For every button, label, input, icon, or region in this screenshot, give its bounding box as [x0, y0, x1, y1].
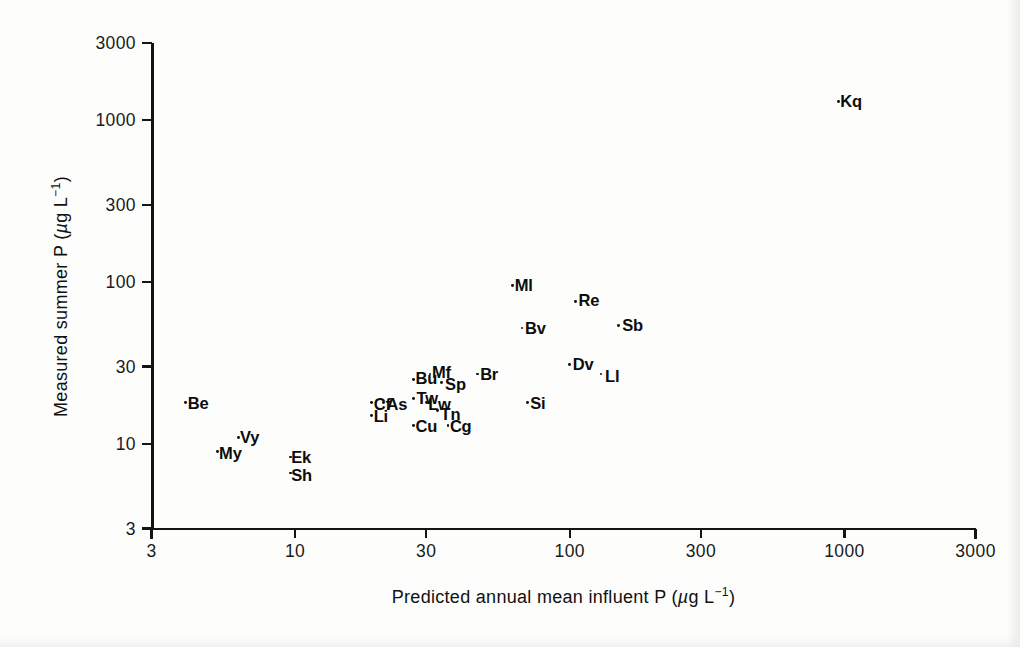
x-axis-title: Predicted annual mean influent P (µg L−1…: [151, 585, 976, 608]
x-axis-tick-label-10: 10: [285, 541, 305, 562]
x-axis-tick-3: [150, 529, 152, 539]
data-point-label-Br: Br: [480, 365, 498, 384]
data-point-marker-Cg: [447, 424, 450, 427]
data-point-label-Vy: Vy: [240, 428, 259, 447]
x-axis-tick-100: [569, 529, 571, 538]
x-axis-tick-30: [425, 529, 427, 538]
x-axis-tick-3000: [974, 529, 976, 539]
data-point-marker-Be: [184, 401, 187, 404]
data-point-label-Bv: Bv: [525, 319, 546, 338]
paper-edge-shading-right: [1006, 0, 1020, 647]
data-point-label-Ek: Ek: [291, 448, 311, 467]
data-point-label-Si: Si: [530, 394, 545, 413]
data-point-label-Ll: Ll: [605, 367, 619, 386]
data-point-marker-Sp: [440, 381, 443, 384]
data-point-marker-Ml: [511, 284, 514, 287]
y-axis-line: [151, 43, 154, 530]
data-point-marker-Cf: [370, 401, 373, 404]
data-point-marker-Ll: [600, 373, 603, 376]
scatter-plot-figure: 3103010030010003000 3103010030010003000 …: [0, 0, 1020, 647]
data-point-label-Be: Be: [188, 394, 209, 413]
x-axis-tick-label-3: 3: [146, 541, 156, 562]
x-axis-line: [151, 528, 976, 531]
data-point-marker-Sb: [617, 324, 620, 327]
data-point-marker-My: [216, 450, 219, 453]
x-axis-tick-10: [294, 529, 296, 538]
y-axis-tick-100: [142, 281, 151, 283]
data-point-marker-Kq: [837, 100, 840, 103]
data-point-label-Re: Re: [579, 291, 600, 310]
data-point-marker-Li: [370, 414, 373, 417]
x-axis-tick-1000: [843, 529, 845, 538]
x-axis-tick-label-30: 30: [416, 541, 436, 562]
y-axis-tick-300: [142, 204, 151, 206]
x-axis-tick-label-300: 300: [686, 541, 716, 562]
x-axis-tick-label-1000: 1000: [824, 541, 865, 562]
data-point-label-My: My: [219, 444, 242, 463]
y-axis-tick-1000: [142, 119, 151, 121]
y-axis-tick-10: [142, 443, 151, 445]
y-axis-title: Measured summer P (µg L−1): [49, 67, 72, 527]
x-axis-tick-label-100: 100: [555, 541, 585, 562]
data-point-label-Kq: Kq: [840, 92, 862, 111]
data-point-marker-Bv: [521, 327, 524, 330]
y-axis-tick-label-3000: 3000: [0, 33, 136, 54]
paper-edge-shading-bottom: [0, 637, 1020, 647]
data-point-label-Li: Li: [374, 407, 388, 426]
y-axis-tick-30: [142, 365, 151, 367]
data-point-marker-Tw: [412, 397, 415, 400]
data-point-label-As: As: [387, 395, 408, 414]
data-point-label-Sh: Sh: [291, 466, 312, 485]
x-axis-tick-label-3000: 3000: [955, 541, 996, 562]
y-axis-tick-3000: [142, 42, 152, 44]
data-point-marker-Si: [526, 401, 529, 404]
data-point-marker-Br: [476, 373, 479, 376]
data-point-label-Cg: Cg: [450, 417, 472, 436]
data-point-marker-Dv: [568, 363, 571, 366]
data-point-marker-Cu: [412, 424, 415, 427]
data-point-label-Sb: Sb: [622, 316, 643, 335]
data-point-label-Ml: Ml: [515, 276, 533, 295]
data-point-label-Sp: Sp: [445, 375, 466, 394]
data-point-label-Dv: Dv: [573, 355, 594, 374]
x-axis-tick-300: [700, 529, 702, 538]
data-point-label-Cu: Cu: [416, 417, 438, 436]
data-point-marker-Vy: [237, 436, 240, 439]
data-point-marker-Re: [574, 300, 577, 303]
data-point-marker-Bu: [412, 378, 415, 381]
